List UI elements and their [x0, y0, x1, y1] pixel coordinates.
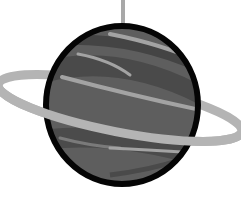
- planet-body: [40, 26, 210, 184]
- planet-illustration: Grayscale hanging planet illustration wi…: [0, 0, 241, 197]
- planet-svg: [0, 0, 241, 197]
